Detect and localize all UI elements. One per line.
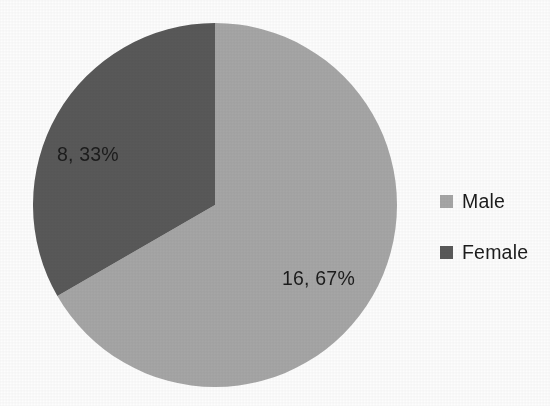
pie-chart-svg xyxy=(33,23,397,387)
legend-label-female: Female xyxy=(462,241,528,264)
pie-chart-figure: 8, 33% 16, 67% Male Female xyxy=(0,0,550,406)
chart-legend: Male Female xyxy=(440,190,528,264)
legend-swatch-male-icon xyxy=(440,195,453,208)
data-label-female: 8, 33% xyxy=(57,143,119,166)
legend-label-male: Male xyxy=(462,190,505,213)
legend-item-male[interactable]: Male xyxy=(440,190,528,213)
data-label-male: 16, 67% xyxy=(282,267,355,290)
pie-chart-plot-area xyxy=(33,23,397,387)
legend-item-female[interactable]: Female xyxy=(440,241,528,264)
legend-swatch-female-icon xyxy=(440,246,453,259)
